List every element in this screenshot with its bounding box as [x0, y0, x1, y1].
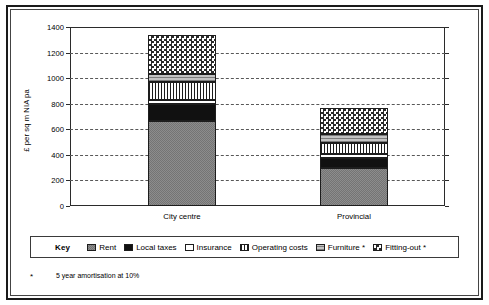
chart-area: £ per sq m NIA pa 1400 1200 1000 800	[0, 0, 489, 305]
bar-city-centre[interactable]	[148, 35, 216, 206]
y-tick-label: 1400	[24, 23, 64, 32]
legend-key-label: Key	[55, 243, 70, 252]
bar-segment-insurance[interactable]	[148, 100, 216, 104]
legend-item-furniture[interactable]: Furniture *	[316, 243, 365, 252]
legend-swatch-operating-costs-icon	[240, 244, 249, 251]
y-tick-label: 400	[24, 150, 64, 159]
legend-item-insurance[interactable]: Insurance	[185, 243, 232, 252]
legend-swatch-furniture-icon	[316, 244, 325, 251]
bar-segment-rent[interactable]	[320, 168, 388, 206]
bar-segment-local-taxes[interactable]	[148, 104, 216, 121]
legend-swatch-rent-icon	[87, 244, 96, 251]
legend-swatch-local-taxes-icon	[124, 244, 133, 251]
legend-label-insurance: Insurance	[197, 243, 232, 252]
legend-item-operating-costs[interactable]: Operating costs	[240, 243, 308, 252]
legend-swatch-insurance-icon	[185, 244, 194, 251]
y-axis-title-text: £ per sq m NIA pa	[22, 89, 31, 151]
footnote: * 5 year amortisation at 10%	[30, 272, 450, 281]
legend-swatch-fitting-out-icon	[373, 244, 382, 251]
bar-segment-rent[interactable]	[148, 121, 216, 206]
plot-frame	[70, 27, 445, 206]
legend-label-local-taxes: Local taxes	[136, 243, 176, 252]
bar-segment-local-taxes[interactable]	[320, 158, 388, 168]
footnote-text: 5 year amortisation at 10%	[56, 272, 139, 279]
bar-segment-operating-costs[interactable]	[148, 82, 216, 100]
bar-segment-insurance[interactable]	[320, 154, 388, 158]
legend: Key Rent Local taxes Insurance Operating…	[30, 236, 459, 258]
legend-label-fitting-out: Fitting-out *	[385, 243, 426, 252]
bar-provincial[interactable]	[320, 108, 388, 206]
bar-segment-furniture[interactable]	[148, 74, 216, 82]
chart-page: £ per sq m NIA pa 1400 1200 1000 800	[0, 0, 489, 305]
x-tick-label-city-centre: City centre	[163, 212, 200, 221]
y-tick-label: 1000	[24, 74, 64, 83]
bar-segment-fitting-out[interactable]	[148, 35, 216, 73]
legend-label-rent: Rent	[99, 243, 116, 252]
legend-label-operating-costs: Operating costs	[252, 243, 308, 252]
legend-item-rent[interactable]: Rent	[87, 243, 116, 252]
plot-axes: 1400 1200 1000 800 600 400	[70, 27, 445, 206]
legend-items: Key Rent Local taxes Insurance Operating…	[55, 243, 434, 252]
legend-item-local-taxes[interactable]: Local taxes	[124, 243, 176, 252]
bar-segment-operating-costs[interactable]	[320, 143, 388, 154]
legend-label-furniture: Furniture *	[328, 243, 365, 252]
x-tick-label-provincial: Provincial	[337, 212, 371, 221]
y-tick-label: 800	[24, 99, 64, 108]
y-tick-label: 0	[24, 202, 64, 211]
y-tick-label: 600	[24, 125, 64, 134]
bar-segment-fitting-out[interactable]	[320, 108, 388, 134]
y-tick-label: 200	[24, 176, 64, 185]
legend-item-fitting-out[interactable]: Fitting-out *	[373, 243, 426, 252]
footnote-marker: *	[30, 272, 56, 281]
y-tick-label: 1200	[24, 48, 64, 57]
bar-segment-furniture[interactable]	[320, 134, 388, 143]
